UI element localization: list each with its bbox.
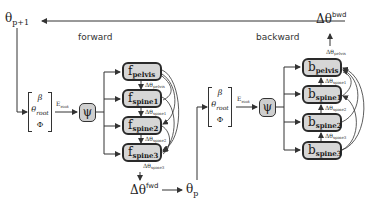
delta-base: Δθ — [325, 104, 333, 111]
forward-eroot-label: Eroot — [56, 100, 69, 109]
delta-sub: pelvis — [334, 51, 346, 56]
delta-fwd-label: Δθfwd — [130, 182, 158, 197]
node-f-spine3: fspine3 — [122, 143, 162, 162]
delta-base: Δθ — [145, 108, 153, 115]
delta-base: Δθ — [145, 81, 153, 88]
node-base: b — [308, 115, 316, 129]
delta-f-spine3: Δθspine3 — [143, 162, 164, 170]
node-sub: pelvis — [132, 70, 155, 79]
phi-symbol: Φ — [29, 119, 51, 131]
node-sub: spine1 — [316, 93, 342, 102]
backward-label: backward — [256, 32, 300, 42]
delta-fwd-base: Δθ — [130, 183, 146, 197]
node-b-spine3: bspine3 — [302, 141, 342, 160]
node-sub: spine1 — [132, 97, 158, 106]
forward-input-vector: β θroot Φ — [28, 92, 52, 132]
backward-input-vector: β θroot Φ — [208, 87, 232, 127]
forward-label: forward — [78, 32, 113, 42]
eroot-sub: root — [241, 99, 249, 104]
delta-sub: pelvis — [153, 84, 165, 89]
node-f-pelvis: fpelvis — [122, 62, 162, 81]
delta-f-spine2: Δθspine2 — [145, 135, 166, 143]
node-b-spine2: bspine2 — [302, 113, 342, 132]
node-sub: spine2 — [132, 124, 158, 133]
delta-b-spine2: Δθspine2 — [325, 104, 346, 112]
phi-symbol: Φ — [209, 114, 231, 126]
delta-sub: spine1 — [333, 80, 346, 85]
node-sub: spine3 — [316, 149, 342, 158]
diagram-canvas: θp+1 Δθbwd forward backward β θroot Φ Er… — [0, 0, 383, 214]
delta-f-spine1: Δθspine1 — [145, 108, 166, 116]
delta-b-pelvis: Δθpelvis — [326, 48, 346, 56]
node-sub: pelvis — [316, 66, 339, 75]
beta-symbol: β — [218, 88, 223, 97]
delta-f-pelvis: Δθpelvis — [145, 81, 165, 89]
theta-root-sub: root — [216, 104, 229, 111]
backward-eroot-label: Eroot — [237, 95, 250, 104]
delta-bwd-sup: bwd — [332, 11, 347, 19]
forward-psi-node: ψ — [79, 103, 96, 122]
node-sub: spine2 — [316, 121, 342, 130]
backward-psi-node: ψ — [259, 98, 276, 117]
delta-base: Δθ — [143, 162, 151, 169]
node-f-spine2: fspine2 — [122, 116, 162, 135]
theta-p-label: θp — [186, 182, 198, 198]
delta-bwd-base: Δθ — [316, 12, 332, 26]
delta-base: Δθ — [326, 48, 334, 55]
delta-fwd-sup: fwd — [146, 182, 159, 190]
theta-p-sub: p — [193, 189, 198, 198]
delta-b-spine3: Δθspine3 — [325, 132, 346, 140]
node-b-spine1: bspine1 — [302, 85, 342, 104]
node-base: b — [308, 87, 316, 101]
node-base: b — [308, 60, 316, 74]
delta-sub: spine2 — [333, 107, 346, 112]
delta-sub: spine3 — [333, 135, 346, 140]
delta-sub: spine2 — [153, 138, 166, 143]
node-base: b — [308, 143, 316, 157]
delta-sub: spine3 — [151, 165, 164, 170]
node-b-pelvis: bpelvis — [302, 58, 342, 77]
node-sub: spine3 — [132, 151, 158, 160]
eroot-sub: root — [60, 104, 68, 109]
delta-base: Δθ — [325, 132, 333, 139]
delta-b-spine1: Δθspine1 — [325, 77, 346, 85]
beta-symbol: β — [38, 93, 43, 102]
delta-base: Δθ — [145, 135, 153, 142]
theta-root-sub: root — [36, 109, 49, 116]
theta-next-label: θp+1 — [5, 11, 29, 27]
node-f-spine1: fspine1 — [122, 89, 162, 108]
delta-sub: spine1 — [153, 111, 166, 116]
delta-bwd-label: Δθbwd — [316, 11, 347, 26]
theta-next-sub: p+1 — [12, 18, 29, 27]
delta-base: Δθ — [325, 77, 333, 84]
